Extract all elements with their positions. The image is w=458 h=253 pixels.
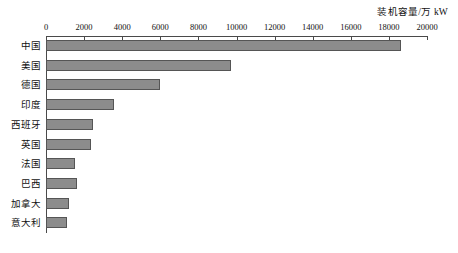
bar-row: 英国 bbox=[46, 135, 427, 155]
bar bbox=[46, 139, 91, 150]
category-label: 印度 bbox=[21, 97, 41, 111]
category-label: 英国 bbox=[21, 137, 41, 151]
bar-row: 加拿大 bbox=[46, 194, 427, 214]
x-tick bbox=[427, 36, 428, 40]
category-label: 意大利 bbox=[11, 215, 41, 229]
x-tick-label: 8000 bbox=[190, 22, 207, 32]
category-label: 中国 bbox=[21, 38, 41, 52]
bar-row: 巴西 bbox=[46, 174, 427, 194]
x-tick-label: 18000 bbox=[378, 22, 399, 32]
x-tick-label: 12000 bbox=[264, 22, 285, 32]
bar bbox=[46, 119, 93, 130]
category-label: 加拿大 bbox=[11, 196, 41, 210]
bar-row: 中国 bbox=[46, 36, 427, 56]
bar bbox=[46, 198, 69, 209]
bar-row: 西班牙 bbox=[46, 115, 427, 135]
bar bbox=[46, 40, 401, 51]
bar-row: 美国 bbox=[46, 56, 427, 76]
bar-chart: 装机容量/万 kW 020004000600080001000012000140… bbox=[0, 0, 458, 253]
x-tick-label: 16000 bbox=[340, 22, 361, 32]
x-tick-label: 2000 bbox=[76, 22, 93, 32]
x-tick-label: 10000 bbox=[226, 22, 247, 32]
category-label: 西班牙 bbox=[11, 117, 41, 131]
bar-row: 法国 bbox=[46, 154, 427, 174]
category-label: 法国 bbox=[21, 156, 41, 170]
bar bbox=[46, 79, 160, 90]
x-tick-label: 0 bbox=[44, 22, 48, 32]
bar bbox=[46, 60, 231, 71]
category-label: 美国 bbox=[21, 58, 41, 72]
bar bbox=[46, 158, 75, 169]
x-tick-label: 4000 bbox=[114, 22, 131, 32]
bar bbox=[46, 178, 77, 189]
bar-row: 印度 bbox=[46, 95, 427, 115]
plot-area: 0200040006000800010000120001400016000180… bbox=[46, 36, 427, 233]
category-label: 德国 bbox=[21, 77, 41, 91]
x-tick-label: 20000 bbox=[416, 22, 437, 32]
x-tick-label: 14000 bbox=[302, 22, 323, 32]
bar bbox=[46, 99, 114, 110]
bar-row: 德国 bbox=[46, 75, 427, 95]
bar-row: 意大利 bbox=[46, 213, 427, 233]
axis-title: 装机容量/万 kW bbox=[377, 4, 448, 18]
x-tick-label: 6000 bbox=[152, 22, 169, 32]
bar-rows: 中国美国德国印度西班牙英国法国巴西加拿大意大利 bbox=[46, 36, 427, 233]
bar bbox=[46, 217, 67, 228]
category-label: 巴西 bbox=[21, 176, 41, 190]
